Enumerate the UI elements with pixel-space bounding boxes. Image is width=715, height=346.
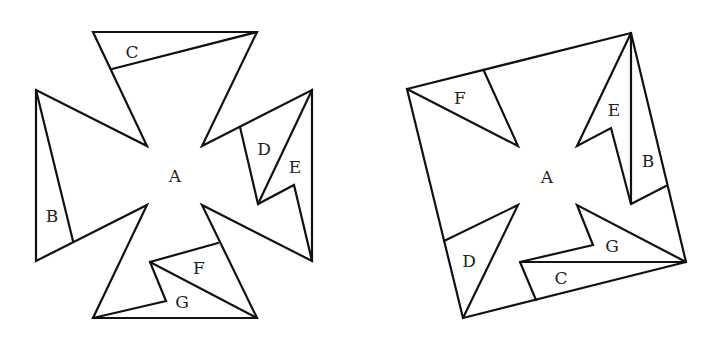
piece-c-edge bbox=[520, 262, 536, 300]
label-right-a: A bbox=[540, 167, 554, 187]
label-left-f: F bbox=[193, 258, 205, 278]
label-left-c: C bbox=[125, 42, 138, 62]
label-right-f: F bbox=[454, 88, 466, 108]
piece-g-edges bbox=[520, 205, 686, 262]
label-left-a: A bbox=[168, 166, 182, 186]
label-left-e: E bbox=[289, 157, 301, 177]
dissection-figure: A B C D E F G A B C D E F G bbox=[0, 0, 715, 346]
piece-d-e-edges bbox=[240, 127, 312, 261]
label-right-c: C bbox=[554, 268, 567, 288]
label-right-g: G bbox=[605, 236, 619, 256]
left-cross-figure: A B C D E F G bbox=[36, 32, 312, 318]
label-left-d: D bbox=[257, 139, 271, 159]
label-right-e: E bbox=[608, 100, 620, 120]
piece-b-edge bbox=[631, 186, 666, 204]
label-left-b: B bbox=[46, 206, 59, 226]
label-left-g: G bbox=[175, 292, 189, 312]
piece-f-edges bbox=[407, 71, 518, 146]
label-right-d: D bbox=[462, 251, 476, 271]
piece-e-edges bbox=[577, 33, 631, 204]
right-square-figure: A B C D E F G bbox=[407, 33, 686, 318]
label-right-b: B bbox=[642, 151, 655, 171]
piece-d-edges bbox=[444, 205, 518, 318]
